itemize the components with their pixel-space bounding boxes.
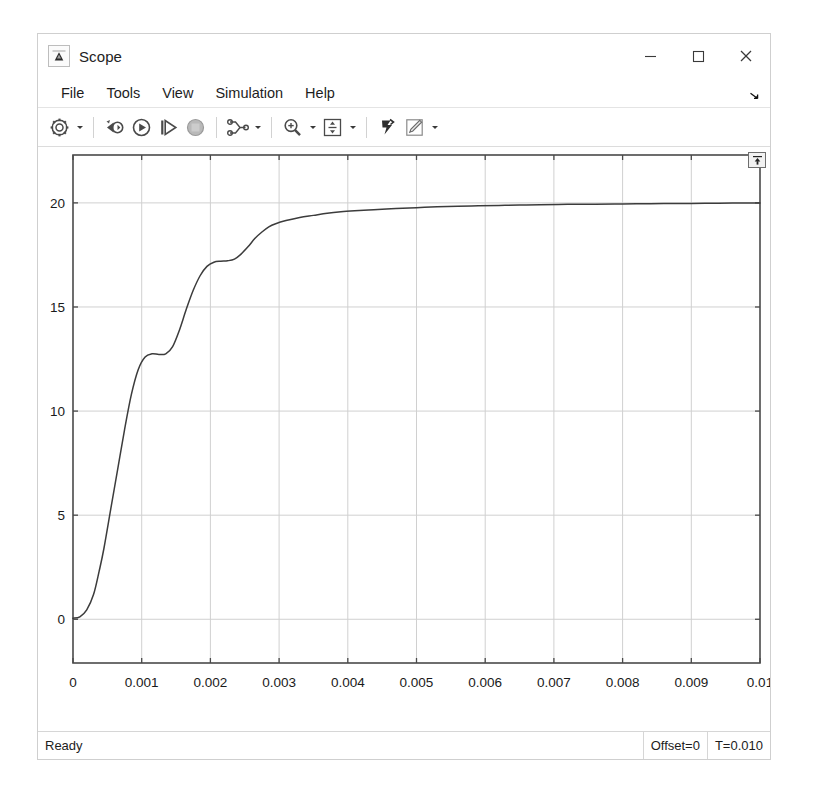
style-dropdown-caret-icon[interactable] — [428, 114, 441, 140]
svg-text:0.01: 0.01 — [747, 675, 770, 690]
svg-text:15: 15 — [50, 300, 65, 315]
svg-text:0.007: 0.007 — [537, 675, 571, 690]
svg-text:20: 20 — [50, 196, 65, 211]
svg-text:0.003: 0.003 — [262, 675, 296, 690]
menu-item-help[interactable]: Help — [294, 79, 346, 107]
svg-text:0.006: 0.006 — [468, 675, 502, 690]
status-offset: Offset=0 — [643, 732, 707, 759]
play-icon[interactable] — [128, 114, 155, 141]
svg-text:0: 0 — [57, 612, 65, 627]
menu-item-tools[interactable]: Tools — [95, 79, 151, 107]
svg-text:5: 5 — [57, 508, 65, 523]
collapse-arrow-icon[interactable] — [749, 88, 760, 106]
status-time: T=0.010 — [707, 732, 770, 759]
svg-text:10: 10 — [50, 404, 65, 419]
svg-text:0.009: 0.009 — [674, 675, 708, 690]
autoscale-dropdown-caret-icon[interactable] — [346, 114, 359, 140]
pencil-style-icon[interactable] — [401, 114, 428, 141]
toolbar-separator — [93, 117, 94, 138]
window-controls — [626, 34, 770, 78]
title-bar: Scope — [38, 34, 770, 78]
scope-window: Scope File Tools View S — [37, 33, 771, 760]
menu-item-file[interactable]: File — [50, 79, 95, 107]
minimize-button[interactable] — [626, 34, 674, 78]
zoom-in-icon[interactable] — [279, 114, 306, 141]
toolbar-separator — [366, 117, 367, 138]
autoscale-icon[interactable] — [319, 114, 346, 141]
float-signal-button[interactable] — [748, 152, 766, 168]
svg-text:0.008: 0.008 — [606, 675, 640, 690]
gear-dropdown-caret-icon[interactable] — [73, 114, 86, 140]
step-forward-icon[interactable] — [155, 114, 182, 141]
status-message: Ready — [38, 732, 643, 759]
signal-selector-dropdown-caret-icon[interactable] — [251, 114, 264, 140]
stop-icon[interactable] — [182, 114, 209, 141]
maximize-button[interactable] — [674, 34, 722, 78]
rewind-icon[interactable] — [101, 114, 128, 141]
plot-area[interactable]: 0510152000.0010.0020.0030.0040.0050.0060… — [38, 147, 770, 731]
menu-bar: File Tools View Simulation Help — [38, 78, 770, 108]
signal-selector-icon[interactable] — [224, 114, 251, 141]
toolbar-separator — [271, 117, 272, 138]
zoom-dropdown-caret-icon[interactable] — [306, 114, 319, 140]
svg-text:0.002: 0.002 — [194, 675, 228, 690]
window-title: Scope — [79, 48, 122, 65]
svg-text:0.004: 0.004 — [331, 675, 365, 690]
cursor-measure-icon[interactable] — [374, 114, 401, 141]
toolbar — [38, 108, 770, 147]
menu-item-view[interactable]: View — [151, 79, 204, 107]
svg-text:0.005: 0.005 — [400, 675, 434, 690]
scope-icon — [48, 45, 70, 67]
close-button[interactable] — [722, 34, 770, 78]
svg-text:0: 0 — [69, 675, 77, 690]
gear-icon[interactable] — [46, 114, 73, 141]
scope-chart: 0510152000.0010.0020.0030.0040.0050.0060… — [38, 147, 770, 727]
status-bar: Ready Offset=0 T=0.010 — [38, 731, 770, 759]
menu-item-simulation[interactable]: Simulation — [204, 79, 294, 107]
toolbar-separator — [216, 117, 217, 138]
svg-text:0.001: 0.001 — [125, 675, 159, 690]
